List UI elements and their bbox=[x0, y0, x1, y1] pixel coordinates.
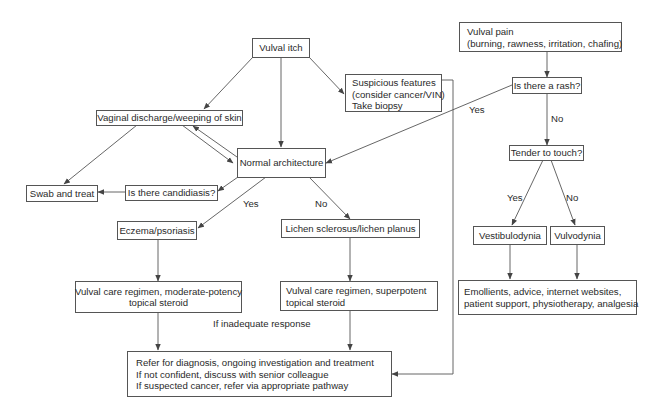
arrow-discharge-to-architecture bbox=[182, 125, 233, 163]
node-text: Vulval pain bbox=[467, 26, 614, 38]
edge-label-rash-yes: Yes bbox=[469, 104, 485, 115]
node-text: Swab and treat bbox=[30, 188, 95, 200]
node-rash-question: Is there a rash? bbox=[512, 77, 582, 94]
node-vaginal-discharge: Vaginal discharge/weeping of skin bbox=[96, 110, 243, 126]
node-text: Tender to touch? bbox=[511, 147, 582, 159]
node-text: (burning, rawness, irritation, chafing) bbox=[467, 38, 614, 50]
node-text: (consider cancer/VIN) bbox=[352, 89, 435, 101]
node-text: Vestibulodynia bbox=[479, 230, 541, 242]
arrow-architecture-to-candidiasis bbox=[218, 177, 238, 191]
node-vulval-itch: Vulval itch bbox=[252, 38, 310, 58]
node-text: Is there a rash? bbox=[514, 80, 581, 92]
edge-label-tender-no: No bbox=[566, 192, 578, 203]
node-text: Is there candidiasis? bbox=[128, 187, 215, 199]
node-vestibulodynia: Vestibulodynia bbox=[473, 226, 547, 245]
node-text: Vaginal discharge/weeping of skin bbox=[97, 112, 241, 124]
node-text: Refer for diagnosis, ongoing investigati… bbox=[136, 357, 383, 369]
node-eczema-psoriasis: Eczema/psoriasis bbox=[117, 221, 197, 240]
node-candidiasis-question: Is there candidiasis? bbox=[125, 185, 218, 201]
node-text: topical steroid bbox=[129, 297, 188, 309]
node-text: Eczema/psoriasis bbox=[119, 225, 194, 237]
node-vulvodynia: Vulvodynia bbox=[550, 226, 605, 245]
node-suspicious-features: Suspicious features (consider cancer/VIN… bbox=[345, 74, 442, 112]
node-text: Lichen sclerosus/lichen planus bbox=[285, 223, 415, 235]
arrow-itch-to-discharge bbox=[204, 57, 253, 109]
node-text: Suspicious features bbox=[352, 77, 435, 89]
arrow-itch-to-suspicious bbox=[309, 57, 344, 94]
edge-label-tender-yes: Yes bbox=[507, 192, 523, 203]
node-tender-question: Tender to touch? bbox=[509, 145, 584, 161]
node-text: Vulval care regimen, moderate-potency bbox=[75, 286, 242, 298]
edge-label-rash-no: No bbox=[551, 113, 563, 124]
node-text: If suspected cancer, refer via appropria… bbox=[136, 380, 383, 392]
edge-label-inadequate-response: If inadequate response bbox=[213, 318, 311, 329]
arrow-discharge-to-swab bbox=[64, 125, 137, 184]
node-text: topical steroid bbox=[286, 297, 432, 309]
node-care-superpotent: Vulval care regimen, superpotent topical… bbox=[280, 281, 438, 311]
node-emollients: Emollients, advice, internet websites, p… bbox=[458, 280, 637, 315]
arrow-architecture-to-discharge bbox=[193, 126, 237, 157]
node-text: patient support, physiotherapy, analgesi… bbox=[464, 298, 631, 310]
node-vulval-pain: Vulval pain (burning, rawness, irritatio… bbox=[459, 22, 622, 52]
node-text: Vulval itch bbox=[259, 42, 302, 54]
node-text: Vulval care regimen, superpotent bbox=[286, 285, 432, 297]
node-text: Normal architecture bbox=[240, 157, 324, 169]
node-text: Take biopsy bbox=[352, 100, 435, 112]
node-care-moderate: Vulval care regimen, moderate-potency to… bbox=[75, 281, 242, 313]
node-refer: Refer for diagnosis, ongoing investigati… bbox=[127, 351, 392, 397]
node-text: Vulvodynia bbox=[554, 230, 601, 242]
node-lichen: Lichen sclerosus/lichen planus bbox=[281, 219, 420, 238]
node-text: If not confident, discuss with senior co… bbox=[136, 369, 383, 381]
node-normal-architecture: Normal architecture bbox=[237, 148, 326, 178]
edge-label-architecture-yes: Yes bbox=[243, 198, 259, 209]
node-swab-and-treat: Swab and treat bbox=[26, 185, 98, 202]
node-text: Emollients, advice, internet websites, bbox=[464, 286, 631, 298]
edge-label-architecture-no: No bbox=[315, 198, 327, 209]
